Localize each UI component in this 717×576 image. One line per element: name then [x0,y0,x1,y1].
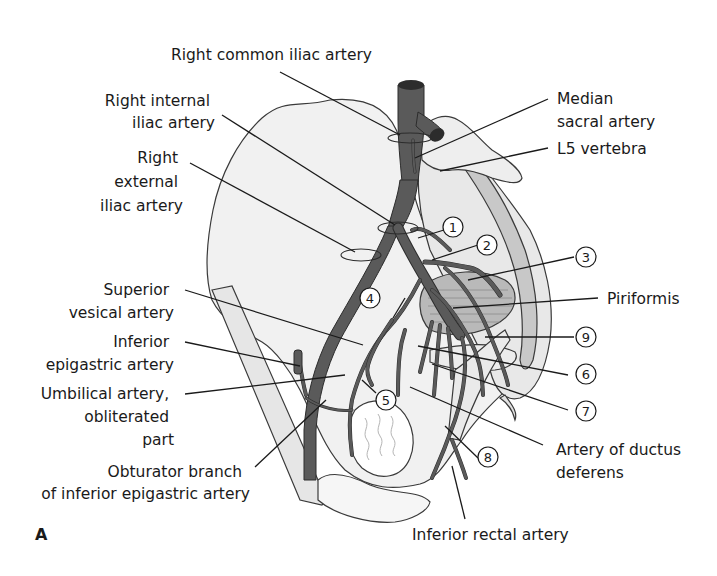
label-artery-of-ductus-deferens: Artery of ductus deferens [556,441,686,482]
svg-text:1: 1 [449,220,457,235]
label-l5-vertebra: L5 vertebra [557,140,647,158]
label-umbilical-artery: Umbilical artery, obliterated part [41,385,174,449]
svg-text:4: 4 [366,291,374,306]
panel-letter: A [35,525,48,544]
marker-7: 7 [576,401,596,421]
marker-1: 1 [443,217,463,237]
marker-9: 9 [576,327,596,347]
label-obturator-branch: Obturator branch of inferior epigastric … [41,463,250,503]
svg-text:5: 5 [382,393,390,408]
aorta-lumen [398,80,424,90]
marker-6: 6 [576,364,596,384]
label-right-common-iliac-artery: Right common iliac artery [171,46,372,64]
label-right-external-iliac-artery: Right external iliac artery [100,149,183,215]
pelvis-illustration [207,99,551,522]
label-superior-vesical-artery: Superior vesical artery [69,281,174,322]
marker-8: 8 [478,447,498,467]
svg-text:3: 3 [582,250,590,265]
marker-5: 5 [376,390,396,410]
label-right-internal-iliac-artery: Right internal iliac artery [105,92,215,132]
svg-text:9: 9 [582,330,590,345]
svg-text:8: 8 [484,450,492,465]
label-piriformis: Piriformis [607,290,680,308]
marker-2: 2 [477,235,497,255]
svg-text:2: 2 [483,238,491,253]
label-median-sacral-artery: Median sacral artery [557,90,655,131]
svg-text:7: 7 [582,404,590,419]
svg-text:6: 6 [582,367,590,382]
label-inferior-rectal-artery: Inferior rectal artery [412,526,569,544]
marker-3: 3 [576,247,596,267]
label-inferior-epigastric-artery: Inferior epigastric artery [46,333,174,374]
pelvic-arteries-diagram: 1 2 3 4 5 6 7 8 [0,0,717,576]
inferior-epigastric-stub [294,350,302,374]
marker-4: 4 [360,288,380,308]
